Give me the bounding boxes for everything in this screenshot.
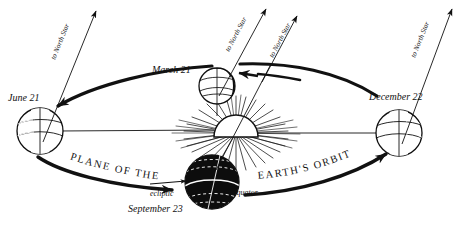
- earth-december-date-label: December 22: [368, 91, 423, 102]
- earth-june-axis-label: to North Star: [49, 22, 71, 60]
- earth-june-date-label: June 21: [8, 92, 39, 103]
- equator-label: equator: [233, 188, 259, 197]
- earth-september-axis-label: to North Star: [268, 22, 293, 59]
- equator-callout: equator: [233, 188, 259, 197]
- diagram-canvas: June 21 to North Star March 21 to North …: [0, 0, 471, 229]
- earth-june-axis-to-north-star: [43, 11, 96, 142]
- orbit-arc-upper-right: [240, 64, 377, 96]
- earth-december-axis-label: to North Star: [409, 20, 431, 58]
- orbit-arrow-toward-march: [239, 73, 258, 76]
- earths-orbit-caption: EARTH'S ORBIT: [256, 146, 372, 181]
- ecliptic-pointer: [150, 181, 186, 184]
- ecliptic-callout: ecliptic: [150, 181, 186, 198]
- earth-june: June 21 to North Star: [8, 11, 96, 168]
- sun-disc: [214, 115, 258, 137]
- earth-orbit-diagram: June 21 to North Star March 21 to North …: [0, 0, 471, 229]
- ecliptic-label: ecliptic: [150, 189, 174, 198]
- earth-september-date-label: September 23: [128, 203, 183, 214]
- earth-march-date-label: March 21: [151, 64, 191, 75]
- earth-december: December 22 to North Star: [368, 9, 452, 170]
